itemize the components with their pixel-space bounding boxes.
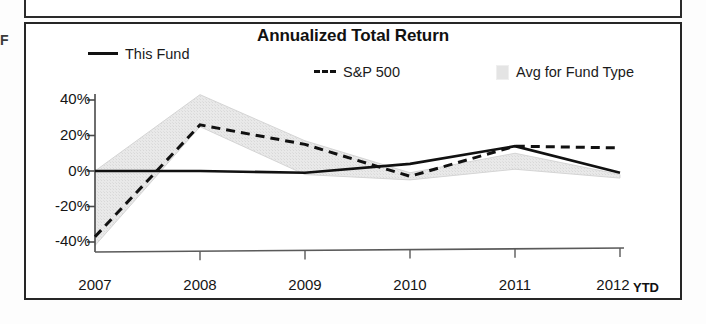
y-axis-label-minus-40: -40% bbox=[30, 232, 90, 249]
x-axis-label-2010: 2010 bbox=[375, 276, 445, 293]
annualized-total-return-chart-panel: Annualized Total Return This Fund S&P 50… bbox=[24, 22, 682, 300]
x-axis-label-ytd: YTD bbox=[633, 280, 659, 295]
x-axis-label-2008: 2008 bbox=[165, 276, 235, 293]
y-axis-label-40: 40% bbox=[30, 90, 90, 107]
x-axis-line bbox=[95, 248, 624, 252]
x-axis-label-2007: 2007 bbox=[60, 276, 130, 293]
x-axis-label-2009: 2009 bbox=[270, 276, 340, 293]
plot-area bbox=[26, 24, 684, 302]
scanned-page: F Annualized Total Return This Fund S&P … bbox=[0, 0, 706, 324]
y-axis-label-minus-20: -20% bbox=[30, 197, 90, 214]
margin-artifact-glyph: F bbox=[0, 31, 12, 49]
x-axis-label-2011: 2011 bbox=[480, 276, 550, 293]
x-axis-tick-marks bbox=[200, 248, 620, 260]
y-axis-label-0: 0% bbox=[30, 162, 90, 179]
upper-panel-bottom-edge bbox=[24, 0, 682, 18]
y-axis-label-20: 20% bbox=[30, 126, 90, 143]
